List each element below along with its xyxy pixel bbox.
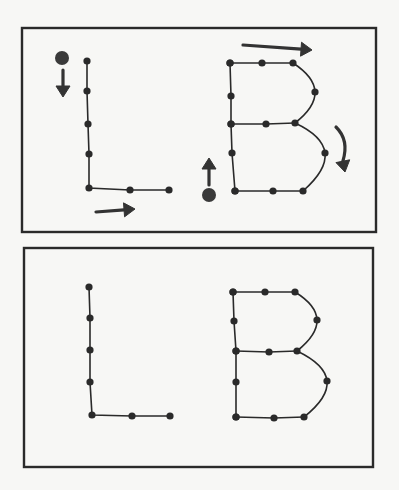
panel-frame — [22, 28, 376, 232]
up-arrow-icon — [202, 158, 216, 185]
node-dot — [229, 288, 236, 295]
letter-b-lower-bowl — [295, 123, 325, 191]
node-dot — [128, 412, 135, 419]
letter-l — [85, 283, 173, 419]
letter-b-lower-bowl — [297, 351, 327, 417]
node-dot — [262, 120, 269, 127]
node-dot — [289, 59, 296, 66]
node-dot — [293, 347, 300, 354]
node-dot — [228, 149, 235, 156]
node-dot — [84, 120, 91, 127]
letter-b — [229, 288, 330, 421]
node-dot — [313, 316, 320, 323]
node-dot — [86, 346, 93, 353]
node-dot — [230, 317, 237, 324]
node-dot — [232, 347, 239, 354]
node-dot — [85, 150, 92, 157]
curved-down-arrow-icon — [336, 127, 350, 172]
letter-b-upper-bowl — [295, 292, 317, 351]
node-dot — [83, 87, 90, 94]
node-dot — [311, 88, 318, 95]
start-point-icon — [202, 188, 216, 202]
node-dot — [126, 186, 133, 193]
panel-frame — [24, 248, 373, 467]
node-dot — [226, 59, 233, 66]
node-dot — [227, 120, 234, 127]
node-dot — [231, 187, 238, 194]
top-right-arrow-icon — [243, 42, 312, 56]
start-point-icon — [55, 51, 69, 65]
panel-with-arrows — [22, 28, 376, 232]
node-dot — [85, 184, 92, 191]
node-dot — [165, 186, 172, 193]
node-dot — [166, 412, 173, 419]
node-dot — [291, 119, 298, 126]
node-dot — [270, 414, 277, 421]
node-dot — [88, 411, 95, 418]
panel-completed-outline — [24, 248, 373, 467]
node-dot — [321, 149, 328, 156]
node-dot — [300, 413, 307, 420]
node-dot — [291, 288, 298, 295]
right-arrow-icon — [96, 203, 135, 217]
letter-l-stroke — [87, 61, 169, 190]
node-dot — [265, 348, 272, 355]
node-dot — [232, 378, 239, 385]
node-dot — [232, 413, 239, 420]
node-dot — [83, 57, 90, 64]
node-dot — [269, 187, 276, 194]
letter-b — [226, 59, 328, 194]
node-dot — [227, 92, 234, 99]
letter-l-stroke — [89, 287, 170, 416]
node-dot — [323, 377, 330, 384]
node-dot — [258, 59, 265, 66]
node-dot — [299, 187, 306, 194]
node-dot — [86, 378, 93, 385]
node-dot — [261, 288, 268, 295]
node-dot — [86, 314, 93, 321]
down-arrow-icon — [56, 70, 70, 97]
letter-l — [83, 57, 172, 193]
letter-b-bottom-bar — [236, 417, 304, 418]
node-dot — [85, 283, 92, 290]
letter-drawing-diagram — [0, 0, 399, 490]
